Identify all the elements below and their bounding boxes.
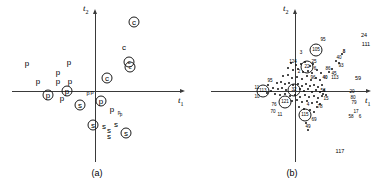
class-marker-c: c: [122, 44, 126, 52]
class-marker-p: p: [67, 59, 71, 67]
panel-b: t1 t2 2411195105840933251242268645401132…: [195, 0, 389, 192]
circled-sample-label: 121: [279, 96, 292, 109]
circled-class-marker-p: p: [96, 96, 107, 107]
sample-label: 86: [325, 67, 330, 72]
data-point: [270, 90, 272, 92]
panel-a-plot-area: t1 t2 pppppppppppppppsssssssccccc: [0, 0, 194, 165]
sample-label: 20: [349, 90, 354, 95]
panel-a-y-axis-arrow: [93, 9, 97, 14]
sample-label: 58: [348, 115, 353, 120]
sample-label: 79: [351, 101, 356, 106]
data-point: [296, 76, 298, 78]
sample-label: 95: [267, 79, 272, 84]
circled-sample-label: 22: [301, 61, 314, 74]
panel-b-x-axis-arrow: [366, 89, 371, 93]
data-point: [282, 75, 284, 77]
panel-a: t1 t2 pppppppppppppppsssssssccccc (a): [0, 0, 194, 192]
panel-a-x-axis: [12, 91, 180, 92]
sample-label: 6: [314, 67, 317, 72]
data-point: [311, 72, 313, 74]
data-point: [313, 111, 315, 113]
class-marker-p: p: [56, 78, 60, 86]
sample-label: 24: [361, 33, 367, 39]
sample-label: 96: [310, 76, 315, 81]
data-point: [313, 84, 315, 86]
data-point: [291, 77, 293, 79]
data-point: [272, 87, 274, 89]
sample-label: 70: [270, 110, 275, 115]
circled-class-marker-c: c: [102, 73, 113, 84]
data-point: [331, 68, 333, 70]
data-point: [316, 101, 318, 103]
figure-container: t1 t2 pppppppppppppppsssssssccccc (a) t1…: [0, 0, 389, 192]
data-point: [321, 84, 323, 86]
data-point: [287, 74, 289, 76]
data-point: [317, 86, 319, 88]
data-point: [299, 96, 301, 98]
class-marker-p: p: [36, 78, 40, 86]
panel-b-x-axis-label: t1: [365, 96, 371, 107]
circled-class-marker-p: p: [43, 90, 54, 101]
class-marker-p: p: [90, 90, 93, 96]
data-point: [315, 89, 317, 91]
data-point: [280, 81, 282, 83]
circled-class-marker-s: s: [88, 120, 99, 131]
class-marker-s: s: [102, 123, 106, 131]
class-marker-p: p: [56, 69, 60, 77]
data-point: [311, 102, 313, 104]
panel-a-x-axis-label-sub: 1: [181, 101, 184, 107]
panel-b-y-axis-arrow: [293, 9, 297, 14]
circled-class-marker-c: c: [129, 17, 140, 28]
data-point: [296, 99, 298, 101]
circled-sample-label: 115: [299, 109, 312, 122]
circled-sample-label: 32: [288, 84, 301, 97]
data-point: [328, 71, 330, 73]
data-point: [308, 96, 310, 98]
panel-a-x-axis-arrow: [180, 89, 185, 93]
sample-label: 40: [322, 76, 327, 81]
panel-a-y-axis: [95, 14, 96, 162]
sample-label: 4: [307, 103, 310, 108]
sample-label: 49: [305, 125, 310, 130]
class-marker-p: p: [86, 91, 89, 97]
panel-b-y-axis-label: t2: [283, 4, 289, 15]
sample-label: 124: [289, 60, 297, 65]
panel-b-x-axis-label-sub: 1: [368, 101, 371, 107]
data-point: [303, 90, 305, 92]
class-marker-p: p: [120, 113, 123, 118]
class-marker-p: p: [110, 106, 114, 114]
data-point: [335, 60, 337, 62]
sample-label: 15: [323, 97, 328, 102]
sample-label: 93: [338, 64, 343, 69]
sample-label: 76: [271, 103, 276, 108]
data-point: [319, 79, 321, 81]
data-point: [311, 91, 313, 93]
panel-b-caption: (b): [195, 168, 389, 178]
sample-label: 113: [331, 76, 338, 81]
sample-label: 3: [300, 51, 303, 56]
data-point: [284, 83, 286, 85]
sample-label: 95: [320, 38, 325, 43]
data-point: [304, 94, 306, 96]
panel-b-y-axis-label-sub: 2: [286, 9, 289, 15]
sample-label: 8: [343, 50, 346, 55]
data-point: [301, 101, 303, 103]
panel-a-y-axis-label-sub: 2: [86, 9, 89, 15]
sample-label: 11: [278, 113, 283, 118]
panel-a-y-axis-label: t2: [83, 4, 89, 15]
class-marker-p: p: [60, 95, 64, 103]
data-point: [306, 75, 308, 77]
data-point: [307, 129, 309, 131]
data-point: [276, 82, 278, 84]
class-marker-s: s: [107, 133, 111, 141]
data-point: [295, 64, 297, 66]
circled-sample-label: 105: [310, 44, 323, 57]
data-point: [287, 67, 289, 69]
sample-label: 2: [298, 70, 301, 75]
circled-class-marker-s: s: [121, 128, 132, 139]
data-point: [274, 93, 276, 95]
sample-label: 78: [317, 105, 322, 110]
data-point: [309, 85, 311, 87]
sample-label: 53: [320, 89, 325, 94]
sample-label: 10: [254, 95, 259, 100]
